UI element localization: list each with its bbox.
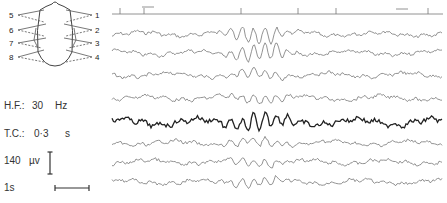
head-outline	[37, 2, 72, 66]
eeg-traces	[108, 0, 447, 203]
amplitude-calibration-bar	[46, 150, 54, 176]
electrode-montage-diagram: 5 6 7 8 1 2 3 4	[0, 0, 110, 70]
eeg-trace-channel-1	[112, 27, 442, 44]
electrode-label-4: 4	[95, 53, 100, 62]
eeg-trace-channel-7	[112, 158, 442, 168]
hf-value: 30	[32, 100, 43, 111]
tc-value: 0·3	[34, 128, 48, 139]
eeg-trace-channel-5	[112, 112, 442, 131]
eeg-trace-channel-6	[112, 136, 442, 147]
amp-value: 140	[4, 155, 21, 166]
time-calibration-bar	[53, 183, 91, 193]
high-frequency-filter: H.F.: 30 Hz	[4, 100, 25, 111]
electrode-label-5: 5	[9, 11, 14, 20]
hf-label: H.F.:	[4, 100, 25, 111]
electrode-label-6: 6	[9, 26, 14, 35]
hf-unit: Hz	[55, 100, 67, 111]
tc-unit: s	[65, 128, 70, 139]
electrode-label-2: 2	[95, 26, 100, 35]
electrode-label-7: 7	[9, 39, 14, 48]
electrode-label-1: 1	[95, 11, 100, 20]
eeg-trace-channel-4	[112, 93, 442, 103]
eeg-trace-channel-3	[112, 68, 442, 81]
amplitude-scale: 140 µv	[4, 155, 21, 166]
eeg-trace-channel-2	[112, 43, 442, 63]
tc-label: T.C.:	[4, 128, 25, 139]
time-label: 1s	[4, 182, 15, 193]
eeg-trace-channel-marker	[112, 7, 443, 14]
time-scale: 1s	[4, 182, 15, 193]
electrode-label-3: 3	[95, 39, 100, 48]
eeg-trace-channel-8	[112, 176, 442, 189]
amp-unit: µv	[29, 155, 40, 166]
electrode-label-8: 8	[9, 53, 14, 62]
time-constant: T.C.: 0·3 s	[4, 128, 25, 139]
